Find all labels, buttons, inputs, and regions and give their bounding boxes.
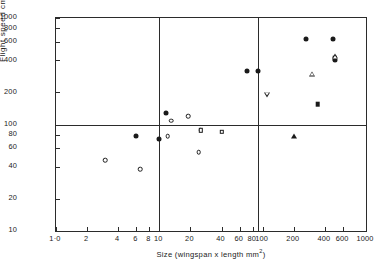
data-point-filled-circle: [134, 134, 139, 139]
y-tick: [56, 18, 60, 19]
data-point-filled-circle: [163, 111, 168, 116]
x-tick-label: 200: [279, 235, 307, 242]
y-tick-label: 40: [8, 162, 17, 169]
data-point-open-circle: [138, 167, 143, 172]
data-point-open-circle: [186, 114, 191, 119]
plot-area: [55, 17, 367, 232]
y-tick: [56, 42, 60, 43]
y-tick: [56, 125, 60, 126]
x-tick-label: 20: [175, 235, 203, 242]
x-tick: [118, 227, 119, 231]
x-axis-title-base: Size (wingspan x length mm: [156, 250, 259, 259]
y-tick-label: 20: [8, 194, 17, 201]
data-point-open-circle: [169, 119, 174, 124]
x-tick: [366, 227, 367, 231]
x-tick: [240, 227, 241, 231]
x-tick: [56, 227, 57, 231]
data-point-open-square: [198, 128, 202, 132]
y-tick-label: 100: [4, 120, 17, 127]
x-tick: [253, 227, 254, 231]
data-point-open-circle: [196, 150, 201, 155]
y-tick: [56, 92, 60, 93]
data-point-open-triangle-up: [332, 54, 338, 59]
data-point-open-triangle-down: [264, 92, 270, 97]
y-tick: [56, 60, 60, 61]
data-point-filled-circle: [255, 68, 260, 73]
data-point-filled-circle: [244, 68, 249, 73]
flight-speed-vs-size-scatter-chart: Flight speed cm/sec Size (wingspan x len…: [0, 0, 386, 269]
data-point-open-square: [219, 130, 223, 134]
y-tick-label: 1000: [0, 13, 17, 20]
x-tick: [87, 227, 88, 231]
x-tick-label: 2: [72, 235, 100, 242]
y-tick-label: 60: [8, 143, 17, 150]
x-tick: [149, 227, 150, 231]
y-tick-label: 800: [4, 24, 17, 31]
data-point-filled-triangle-up: [291, 134, 297, 139]
x-tick: [222, 227, 223, 231]
y-tick-label: 80: [8, 130, 17, 137]
x-tick: [159, 227, 160, 231]
y-tick-label: 10: [8, 226, 17, 233]
y-tick: [56, 231, 60, 232]
x-tick-label: 10: [144, 235, 172, 242]
y-tick: [56, 135, 60, 136]
x-axis-title-tail: ): [263, 250, 266, 259]
x-tick: [190, 227, 191, 231]
y-tick: [56, 167, 60, 168]
y-tick: [56, 199, 60, 200]
x-tick-label: 100: [248, 235, 276, 242]
x-tick: [263, 227, 264, 231]
y-tick: [56, 28, 60, 29]
x-tick-label: 1·0: [41, 235, 69, 242]
data-point-open-circle: [103, 158, 108, 163]
data-point-filled-circle: [303, 36, 308, 41]
data-point-open-triangle-up: [309, 71, 315, 76]
x-tick: [294, 227, 295, 231]
x-tick: [343, 227, 344, 231]
data-point-filled-circle: [331, 36, 336, 41]
data-point-filled-square: [315, 102, 320, 107]
y-tick-label: 200: [4, 88, 17, 95]
x-tick-label: 1000: [351, 235, 379, 242]
x-axis-title: Size (wingspan x length mm2): [55, 248, 367, 259]
reference-line-horizontal: [56, 125, 366, 126]
data-point-filled-circle: [157, 137, 162, 142]
y-tick: [56, 148, 60, 149]
x-tick: [325, 227, 326, 231]
y-tick-label: 400: [4, 56, 17, 63]
y-tick-label: 600: [4, 37, 17, 44]
x-tick: [136, 227, 137, 231]
data-point-open-circle: [165, 134, 170, 139]
